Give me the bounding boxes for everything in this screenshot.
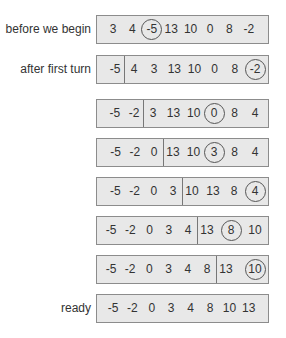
array-value: 0	[204, 56, 226, 83]
step-label: before we begin	[6, 15, 91, 43]
array-value: 10	[184, 56, 206, 83]
array-value: 10	[244, 217, 266, 244]
sort-step-row: after first turn-543131008-2	[0, 55, 286, 83]
array-value: 8	[224, 139, 246, 166]
array-value: 10	[183, 100, 205, 127]
array-box: -5-231310084	[96, 99, 269, 128]
sort-step-row: -5-231310084	[0, 99, 286, 127]
array-box: -5-203481013	[96, 294, 269, 323]
sort-step-row: before we begin34-5131008-2	[0, 15, 286, 43]
array-box: -5-203413810	[96, 216, 269, 245]
array-value: -2	[238, 16, 260, 43]
array-box: -5-203481310	[96, 255, 269, 284]
circled-minimum-value: -2	[244, 56, 266, 83]
array-value: 13	[202, 178, 224, 205]
array-value: 4	[123, 56, 145, 83]
array-box: -543131008-2	[96, 55, 269, 84]
circled-minimum-value: 10	[244, 256, 266, 283]
circled-minimum-value: 8	[220, 217, 242, 244]
array-value: 4	[244, 100, 266, 127]
array-value: 8	[223, 178, 245, 205]
array-value: 13	[162, 139, 184, 166]
circled-minimum-value: 4	[244, 178, 266, 205]
array-value: 13	[163, 56, 185, 83]
array-value: 10	[183, 139, 205, 166]
sort-step-row: -5-201310384	[0, 138, 286, 166]
array-box: -5-203101384	[96, 177, 269, 206]
array-value: 3	[143, 56, 165, 83]
array-value: 3	[142, 100, 164, 127]
array-box: 34-5131008-2	[96, 15, 269, 44]
array-box: -5-201310384	[96, 138, 269, 167]
sort-step-row: -5-203481310	[0, 255, 286, 283]
array-value: 8	[224, 100, 246, 127]
step-label: ready	[61, 294, 91, 322]
array-value: 13	[238, 295, 260, 322]
circled-minimum-value: 0	[203, 100, 225, 127]
array-value: 4	[244, 139, 266, 166]
sort-step-row: -5-203101384	[0, 177, 286, 205]
array-value: 13	[162, 100, 184, 127]
step-label: after first turn	[20, 55, 91, 83]
array-value: 8	[224, 56, 246, 83]
array-value: 10	[181, 178, 203, 205]
array-value: 13	[196, 217, 218, 244]
array-value: 13	[215, 256, 237, 283]
sort-step-row: -5-203413810	[0, 216, 286, 244]
circled-minimum-value: 3	[203, 139, 225, 166]
sort-step-row: ready-5-203481013	[0, 294, 286, 322]
